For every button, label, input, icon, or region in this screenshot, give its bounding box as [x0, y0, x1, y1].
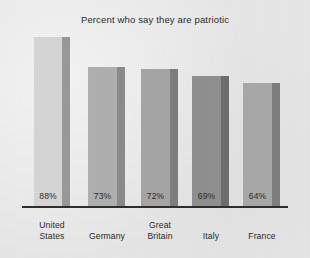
bar-italy — [192, 76, 229, 207]
chart-container: Percent who say they are patriotic 88% 7… — [0, 0, 310, 258]
bar-side-face — [221, 76, 229, 207]
x-tick-label-france: France — [235, 231, 289, 242]
x-tick-label-united-states: United States — [26, 220, 78, 242]
bar-value-united-states: 88% — [34, 191, 62, 201]
bar-side-face — [117, 67, 125, 207]
bar-value-great-britain: 72% — [141, 191, 170, 201]
bar-great-britain — [141, 69, 178, 207]
bar-side-face — [272, 83, 280, 207]
x-tick-label-line1: France — [248, 231, 275, 241]
bar-side-face — [62, 37, 70, 207]
bar-france — [243, 83, 280, 207]
bar-united-states — [34, 37, 70, 207]
x-tick-label-great-britain: Great Britain — [133, 220, 187, 242]
plot-area: 88% 73% 72% 69% 64% United States — [0, 0, 310, 258]
bar-side-face — [170, 69, 178, 207]
x-tick-label-germany: Germany — [80, 231, 134, 242]
x-tick-label-italy: Italy — [186, 231, 236, 242]
bar-value-italy: 69% — [192, 191, 221, 201]
bar-value-germany: 73% — [88, 191, 117, 201]
x-tick-label-line1: Great — [149, 220, 171, 230]
x-axis-line — [22, 206, 288, 208]
x-tick-label-line2: States — [26, 231, 78, 242]
bar-germany — [88, 67, 125, 207]
x-tick-label-line2: Britain — [133, 231, 187, 242]
x-tick-label-line1: Italy — [203, 231, 219, 241]
bar-value-france: 64% — [243, 191, 272, 201]
x-tick-label-line1: Germany — [89, 231, 125, 241]
x-tick-label-line1: United — [39, 220, 64, 230]
